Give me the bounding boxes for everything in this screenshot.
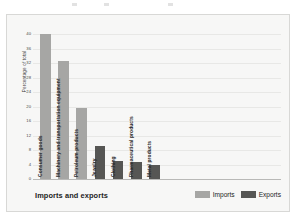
y-tick-label: 28	[26, 75, 31, 79]
axis-baseline	[33, 179, 281, 180]
legend-item: Imports	[195, 191, 235, 198]
plot-area: 0481216202428323640 Consumer goodsMachin…	[33, 34, 281, 179]
bar-category-label: Jewelry	[92, 158, 97, 177]
bar-category-label: Machinery and transportation equipment	[56, 78, 61, 177]
legend-item: Exports	[241, 191, 281, 198]
x-axis-title: Imports and exports	[35, 191, 108, 200]
bar-category-label: Metal products	[147, 141, 152, 177]
legend-swatch	[241, 191, 256, 198]
y-tick-label: 8	[29, 148, 31, 152]
chart-panel: Percentage of total 0481216202428323640 …	[6, 14, 290, 212]
bar-category-label: Consumer goods	[38, 135, 43, 177]
legend: ImportsExports	[195, 191, 281, 198]
chart-figure: Percentage of total 0481216202428323640 …	[0, 0, 296, 216]
scan-mark	[72, 3, 77, 6]
chart-footer: Imports and exports ImportsExports	[33, 187, 281, 205]
y-tick-label: 20	[26, 104, 31, 108]
y-tick-label: 24	[26, 90, 31, 94]
bar-category-label: Petroleum products	[74, 129, 79, 177]
bar-category-label: Pharmaceutical products	[129, 116, 134, 177]
bar-group: Consumer goodsMachinery and transportati…	[33, 34, 281, 179]
bar-category-label: Clothing	[111, 156, 116, 177]
y-tick-label: 16	[26, 119, 31, 123]
y-tick-label: 12	[26, 133, 31, 137]
y-tick-label: 0	[29, 177, 31, 181]
legend-label: Exports	[259, 191, 281, 198]
legend-label: Imports	[213, 191, 235, 198]
legend-swatch	[195, 191, 210, 198]
y-tick-label: 40	[26, 32, 31, 36]
y-tick-label: 32	[26, 61, 31, 65]
y-tick-label: 4	[29, 162, 31, 166]
scan-artifacts	[0, 0, 296, 14]
y-tick-label: 36	[26, 46, 31, 50]
scan-mark	[168, 3, 173, 6]
scan-mark	[104, 3, 109, 6]
